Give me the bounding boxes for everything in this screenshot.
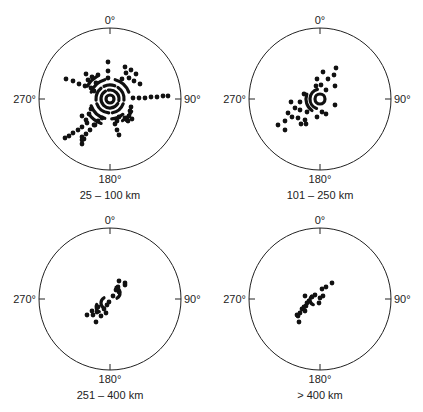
- data-point: [289, 100, 294, 105]
- data-point: [80, 125, 85, 130]
- label-90-deg: 90°: [184, 293, 201, 305]
- data-point: [92, 89, 97, 94]
- data-point: [296, 116, 301, 121]
- data-point: [298, 100, 303, 105]
- data-point: [315, 77, 320, 82]
- data-point: [117, 279, 122, 284]
- data-point: [64, 77, 69, 82]
- data-point: [296, 314, 301, 319]
- data-point: [155, 95, 160, 100]
- data-point: [299, 122, 304, 127]
- label-0-deg: 0°: [105, 214, 116, 226]
- data-point: [83, 84, 88, 89]
- data-point: [106, 76, 111, 81]
- data-point: [111, 294, 116, 299]
- data-point: [123, 65, 128, 70]
- data-point: [297, 320, 302, 325]
- data-point: [319, 83, 324, 88]
- data-point: [310, 295, 315, 300]
- data-point: [102, 307, 107, 312]
- data-point: [305, 110, 310, 115]
- label-270-deg: 270°: [223, 93, 246, 105]
- data-point: [302, 305, 307, 310]
- data-point: [333, 84, 338, 89]
- data-point: [138, 82, 143, 87]
- data-point: [96, 119, 101, 124]
- data-point: [105, 303, 110, 308]
- data-point: [128, 109, 133, 114]
- ring: [106, 95, 114, 103]
- data-point: [134, 72, 139, 77]
- label-180-deg: 180°: [309, 373, 332, 385]
- data-point: [106, 69, 111, 74]
- data-point: [333, 103, 338, 108]
- data-point: [283, 128, 288, 133]
- data-point: [320, 287, 325, 292]
- panel-title: > 400 km: [297, 389, 343, 401]
- data-point: [90, 75, 95, 80]
- data-point: [334, 66, 339, 71]
- label-270-deg: 270°: [223, 293, 246, 305]
- label-90-deg: 90°: [184, 93, 201, 105]
- data-point: [86, 78, 91, 83]
- data-point: [324, 88, 329, 93]
- data-point: [100, 116, 105, 121]
- arc-segment: [101, 298, 104, 308]
- data-point: [123, 283, 128, 288]
- label-180-deg: 180°: [99, 373, 122, 385]
- data-point: [293, 106, 298, 111]
- label-180-deg: 180°: [99, 173, 122, 185]
- label-0-deg: 0°: [315, 14, 326, 26]
- data-point: [332, 73, 337, 78]
- data-point: [131, 96, 136, 101]
- data-point: [95, 310, 100, 315]
- data-point: [94, 320, 99, 325]
- data-point: [290, 115, 295, 120]
- data-point: [92, 123, 97, 128]
- data-point: [117, 133, 122, 138]
- data-point: [129, 68, 134, 73]
- data-point: [89, 107, 94, 112]
- data-point: [143, 96, 148, 101]
- data-point: [161, 94, 166, 99]
- data-point: [96, 73, 101, 78]
- data-point: [302, 92, 307, 97]
- data-point: [84, 72, 89, 77]
- data-point: [276, 123, 281, 128]
- data-point: [298, 108, 303, 113]
- data-point: [326, 77, 331, 82]
- data-point: [315, 115, 320, 120]
- data-point: [124, 71, 129, 76]
- data-point: [149, 95, 154, 100]
- data-point: [137, 96, 142, 101]
- data-point: [115, 128, 120, 133]
- data-point: [127, 76, 132, 81]
- data-point: [321, 294, 326, 299]
- label-0-deg: 0°: [105, 14, 116, 26]
- ring-segment: [104, 85, 115, 86]
- data-point: [96, 305, 101, 310]
- polar-panel-1: 0°90°180°270°25 – 100 km: [13, 14, 200, 201]
- data-point: [63, 136, 68, 141]
- data-point: [84, 132, 89, 137]
- outer-circle: [39, 28, 181, 170]
- data-point: [304, 122, 309, 127]
- data-point: [85, 121, 90, 126]
- label-90-deg: 90°: [394, 293, 411, 305]
- data-point: [125, 118, 130, 123]
- data-point: [106, 60, 111, 65]
- label-0-deg: 0°: [315, 214, 326, 226]
- label-90-deg: 90°: [394, 93, 411, 105]
- data-point: [132, 79, 137, 84]
- data-point: [130, 117, 135, 122]
- data-point: [324, 112, 329, 117]
- data-point: [91, 313, 96, 318]
- data-point: [114, 288, 119, 293]
- outer-circle: [39, 228, 181, 370]
- data-point: [94, 81, 99, 86]
- ring: [315, 94, 325, 104]
- data-point: [120, 77, 125, 82]
- data-point: [330, 281, 335, 286]
- panel-title: 101 – 250 km: [287, 189, 354, 201]
- polar-panel-3: 0°90°180°270°251 – 400 km: [13, 214, 200, 401]
